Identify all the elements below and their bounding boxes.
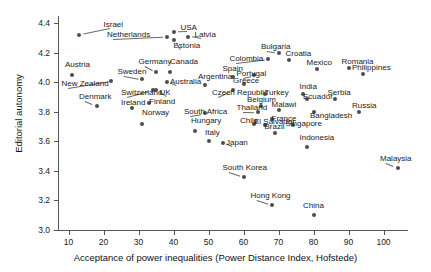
data-point xyxy=(347,66,351,70)
data-point-label: Australia xyxy=(170,77,201,86)
x-tick-mark xyxy=(314,231,315,235)
data-point-label: Philippines xyxy=(352,63,391,72)
x-tick-mark xyxy=(209,231,210,235)
data-point-label: Estonia xyxy=(174,41,201,50)
data-point-label: Canada xyxy=(170,57,198,66)
data-point xyxy=(186,35,190,39)
x-tick-mark xyxy=(139,231,140,235)
data-point-label: Argentina xyxy=(198,72,232,81)
data-point xyxy=(305,145,309,149)
data-point xyxy=(154,88,158,92)
data-point-label: Malaysia xyxy=(380,154,412,163)
data-point xyxy=(193,129,197,133)
y-tick-label: 3.8 xyxy=(26,107,50,117)
y-tick-mark xyxy=(54,23,58,24)
label-leader-line xyxy=(123,76,138,80)
data-point-label: Italy xyxy=(205,128,220,137)
data-point-label: Hungary xyxy=(191,116,221,125)
data-point-label: South Korea xyxy=(223,163,267,172)
x-tick-mark xyxy=(69,231,70,235)
data-point-label: New Zealand xyxy=(62,79,109,88)
data-point xyxy=(270,203,274,207)
data-point-label: Austria xyxy=(65,60,90,69)
x-tick-label: 90 xyxy=(334,237,364,247)
data-point xyxy=(221,141,225,145)
data-point xyxy=(140,77,144,81)
data-point xyxy=(277,108,281,112)
data-point xyxy=(315,67,319,71)
x-tick-mark xyxy=(104,231,105,235)
data-point-label: Bangladesh xyxy=(310,111,352,120)
data-point xyxy=(154,70,158,74)
data-point-label: Russia xyxy=(352,101,376,110)
data-point-label: Netherlands xyxy=(107,30,150,39)
y-tick-mark xyxy=(54,171,58,172)
y-tick-label: 3.6 xyxy=(26,136,50,146)
data-point-label: China xyxy=(303,201,324,210)
data-point xyxy=(396,166,400,170)
data-point-label: Thailand xyxy=(237,103,268,112)
data-point xyxy=(203,83,207,87)
data-point xyxy=(277,51,281,55)
data-point xyxy=(266,57,270,61)
x-tick-label: 30 xyxy=(124,237,154,247)
x-tick-mark xyxy=(244,231,245,235)
label-leader-line xyxy=(386,163,394,167)
y-tick-mark xyxy=(54,230,58,231)
data-point-label: Colombia xyxy=(230,54,264,63)
data-point xyxy=(242,175,246,179)
data-point-label: Mexico xyxy=(307,58,332,67)
data-point xyxy=(77,33,81,37)
x-tick-mark xyxy=(279,231,280,235)
label-leader-line xyxy=(242,112,253,113)
x-tick-label: 20 xyxy=(89,237,119,247)
data-point-label: Croatia xyxy=(286,49,312,58)
y-tick-label: 3.0 xyxy=(26,225,50,235)
data-point-label: India xyxy=(300,82,317,91)
x-tick-label: 50 xyxy=(194,237,224,247)
data-point xyxy=(333,97,337,101)
y-tick-label: 4.2 xyxy=(26,48,50,58)
data-point-label: Ireland xyxy=(121,98,145,107)
data-point-label: Germany xyxy=(139,57,172,66)
x-tick-label: 60 xyxy=(229,237,259,247)
data-point xyxy=(168,70,172,74)
x-tick-label: 80 xyxy=(299,237,329,247)
data-point-label: Portugal xyxy=(237,69,267,78)
data-point xyxy=(70,73,74,77)
data-point-label: Latvia xyxy=(195,30,216,39)
data-point xyxy=(172,30,176,34)
y-axis-title: Editorial autonomy xyxy=(13,44,24,184)
x-tick-mark xyxy=(174,231,175,235)
y-tick-label: 3.4 xyxy=(26,166,50,176)
label-leader-line xyxy=(267,51,275,53)
scatter-plot: 102030405060708090100 3.03.23.43.63.84.0… xyxy=(0,0,431,272)
data-point-label: Malawi xyxy=(272,100,297,109)
data-point-label: Indonesia xyxy=(300,133,335,142)
label-leader-line xyxy=(85,101,93,105)
x-tick-label: 100 xyxy=(369,237,399,247)
data-point xyxy=(165,35,169,39)
y-tick-mark xyxy=(54,82,58,83)
label-leader-line xyxy=(228,172,240,177)
data-point-label: Hong Kong xyxy=(251,191,291,200)
data-point-label: Brazil xyxy=(265,122,285,131)
y-tick-mark xyxy=(54,112,58,113)
data-point xyxy=(140,122,144,126)
data-point xyxy=(357,110,361,114)
y-tick-label: 3.2 xyxy=(26,195,50,205)
x-tick-mark xyxy=(384,231,385,235)
data-point-label: Sweden xyxy=(118,67,147,76)
x-tick-label: 10 xyxy=(54,237,84,247)
y-tick-mark xyxy=(54,200,58,201)
data-point-label: South Africa xyxy=(184,107,227,116)
x-tick-label: 40 xyxy=(159,237,189,247)
x-tick-label: 70 xyxy=(264,237,294,247)
data-point xyxy=(361,72,365,76)
data-point xyxy=(165,80,169,84)
data-point xyxy=(273,131,277,135)
data-point-label: Serbia xyxy=(328,88,351,97)
y-tick-mark xyxy=(54,53,58,54)
data-point xyxy=(287,58,291,62)
data-point-label: Japan xyxy=(226,138,248,147)
